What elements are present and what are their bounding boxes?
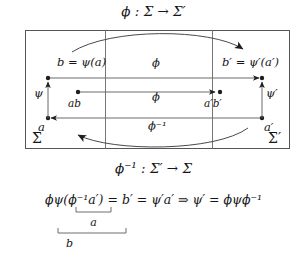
node-label-a-prime-b-prime: a′b′ [204,98,222,109]
phi-top-edge [46,76,264,80]
phi-middle-edge [76,90,222,94]
node-label-b-prime-equals-psi-prime-a-prime: b′ = ψ′(a′) [222,57,279,69]
diagram-artwork [0,0,307,269]
edge-label-phi-middle: ϕ [152,92,160,104]
underbrace-inner-label: a [90,216,97,229]
phi-arc-arrow [72,34,243,52]
region-label-sigma: Σ [32,131,42,145]
edge-label-psi: ψ [34,88,43,100]
underbrace-inner [76,207,111,212]
underbrace-outer-label-wrap: b [0,238,307,249]
node-label-ab: ab [68,98,81,109]
figure-canvas: ϕ : Σ → Σ′ [0,0,307,269]
underbrace-outer-label: b [66,237,73,250]
underbrace-inner-label-wrap: a [0,217,307,228]
region-label-sigma-prime: Σ′ [268,131,281,145]
node-label-b-equals-psi-a: b = ψ(a) [57,57,106,69]
edge-label-psi-prime: ψ′ [266,88,278,100]
edge-label-phi-top: ϕ [152,58,160,70]
edge-label-phi-inverse: ϕ⁻¹ [148,121,167,133]
conjugation-equation: ϕψ(ϕ⁻¹a′) = b′ = ψ′a′ ⇒ ψ′ = ϕψϕ⁻¹ [0,194,307,207]
caption-bottom-phi-inverse-map: ϕ⁻¹ : Σ′ → Σ [0,162,307,176]
